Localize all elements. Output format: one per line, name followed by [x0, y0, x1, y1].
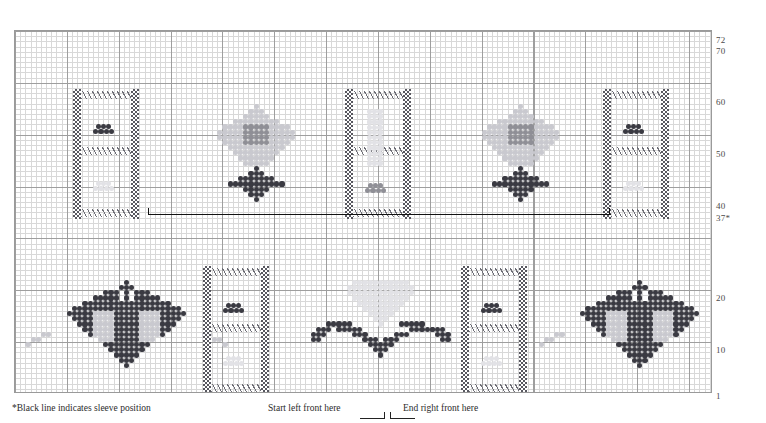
- stitch-cell: [155, 295, 160, 300]
- stitch-cell: [648, 352, 653, 357]
- stitch-cell: [642, 327, 647, 332]
- stitch-cell: [637, 295, 642, 300]
- slash-row: [211, 384, 261, 392]
- stitch-cell: [368, 342, 373, 347]
- stitch-cell: [254, 197, 259, 202]
- stitch-cell: [419, 321, 424, 326]
- stitch-cell: [222, 130, 227, 135]
- stitch-cell: [264, 161, 269, 166]
- end-bracket: [390, 412, 415, 419]
- braid-band: [461, 266, 469, 393]
- stitch-cell: [25, 342, 30, 347]
- braid-band: [603, 89, 611, 219]
- slash-row: [81, 209, 131, 217]
- stitch-cell: [36, 337, 41, 342]
- stitch-cell: [684, 321, 689, 326]
- row-number-40: 40: [716, 202, 726, 211]
- band-dot: [228, 361, 233, 366]
- stitch-cell: [534, 124, 539, 129]
- slash-row: [81, 147, 131, 155]
- stitch-cell: [254, 124, 259, 129]
- stitch-cell: [254, 187, 259, 192]
- sleeve-note-caption: *Black line indicates sleeve position: [12, 403, 151, 413]
- row-number-50: 50: [716, 150, 726, 159]
- stitch-cell: [362, 337, 367, 342]
- stitch-cell: [259, 192, 264, 197]
- stitch-cell: [114, 352, 119, 357]
- stitch-cell: [508, 161, 513, 166]
- row-number-72: 72: [716, 36, 726, 45]
- stitch-cell: [616, 295, 621, 300]
- stitch-cell: [502, 124, 507, 129]
- stitch-cell: [248, 130, 253, 135]
- slash-row: [611, 91, 661, 99]
- stitch-cell: [616, 342, 621, 347]
- stitch-cell: [394, 306, 399, 311]
- stitch-cell: [679, 327, 684, 332]
- braid-band: [403, 89, 411, 219]
- row-number-10: 10: [716, 346, 726, 355]
- stitch-cell: [279, 145, 284, 150]
- stitch-cell: [502, 130, 507, 135]
- stitch-cell: [642, 285, 647, 290]
- stitch-cell: [248, 192, 253, 197]
- braid-band: [203, 266, 211, 393]
- row-number-60: 60: [716, 98, 726, 107]
- stitch-cell: [264, 187, 269, 192]
- row-number-37: 37*: [716, 214, 730, 223]
- stitch-cell: [88, 321, 93, 326]
- stitch-cell: [616, 321, 621, 326]
- stitch-cell: [254, 130, 259, 135]
- stitch-cell: [316, 337, 321, 342]
- knitting-chart-grid: [14, 30, 712, 393]
- stitch-cell: [368, 295, 373, 300]
- stitch-cell: [171, 321, 176, 326]
- stitch-cell: [502, 181, 507, 186]
- band-dot: [628, 129, 633, 134]
- stitch-cell: [388, 295, 393, 300]
- slash-row: [211, 268, 261, 276]
- stitch-cell: [114, 321, 119, 326]
- row-number-axis: 727060504037*20101: [716, 30, 764, 393]
- stitch-cell: [404, 295, 409, 300]
- band-dot: [628, 186, 633, 191]
- stitch-cell: [362, 306, 367, 311]
- stitch-cell: [108, 295, 113, 300]
- stitch-cell: [321, 332, 326, 337]
- stitch-cell: [394, 337, 399, 342]
- stitch-cell: [285, 140, 290, 145]
- stitch-cell: [248, 187, 253, 192]
- stitch-cell: [508, 124, 513, 129]
- band-bar-cell: [377, 161, 382, 166]
- stitch-cell: [534, 155, 539, 160]
- stitch-cell: [399, 301, 404, 306]
- stitch-cell: [222, 140, 227, 145]
- start-bracket: [360, 412, 385, 419]
- stitch-cell: [648, 327, 653, 332]
- stitch-cell: [114, 295, 119, 300]
- slash-row: [611, 209, 661, 217]
- start-left-front-caption: Start left front here: [268, 403, 341, 413]
- stitch-cell: [534, 181, 539, 186]
- braid-band: [261, 266, 269, 393]
- stitch-cell: [347, 321, 352, 326]
- stitch-cell: [368, 311, 373, 316]
- stitch-cell: [445, 337, 450, 342]
- stitch-cell: [404, 332, 409, 337]
- stitch-cell: [508, 130, 513, 135]
- stitch-cell: [528, 181, 533, 186]
- stitch-cell: [673, 321, 678, 326]
- stitch-cell: [518, 104, 523, 109]
- slash-row: [353, 91, 403, 99]
- slash-row: [469, 384, 519, 392]
- braid-band: [519, 266, 527, 393]
- stitch-cell: [82, 321, 87, 326]
- stitch-cell: [642, 321, 647, 326]
- stitch-cell: [544, 181, 549, 186]
- stitch-cell: [290, 135, 295, 140]
- band-dot: [98, 129, 103, 134]
- stitch-cell: [88, 327, 93, 332]
- stitch-cell: [528, 124, 533, 129]
- stitch-cell: [648, 295, 653, 300]
- stitch-cell: [269, 155, 274, 160]
